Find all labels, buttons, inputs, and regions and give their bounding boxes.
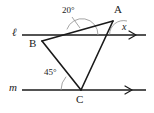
geometry-figure: ℓ m A B C 20° x 45° bbox=[0, 0, 154, 113]
line-m-group bbox=[22, 86, 146, 94]
vertex-label-c: C bbox=[76, 94, 83, 105]
angle-arc-45 bbox=[61, 77, 66, 90]
segment-ac bbox=[81, 21, 113, 90]
angle-label-x: x bbox=[122, 22, 126, 32]
vertex-label-b: B bbox=[29, 38, 36, 49]
line-label-l: ℓ bbox=[12, 27, 17, 38]
segment-bc bbox=[42, 41, 81, 90]
line-label-m: m bbox=[9, 82, 17, 93]
angle-label-45: 45° bbox=[44, 68, 57, 77]
triangle-abc bbox=[42, 21, 113, 90]
vertex-label-a: A bbox=[114, 4, 122, 15]
line-l-group bbox=[22, 31, 146, 39]
angle-label-20: 20° bbox=[62, 6, 75, 15]
angle-arcs-group bbox=[61, 17, 127, 90]
